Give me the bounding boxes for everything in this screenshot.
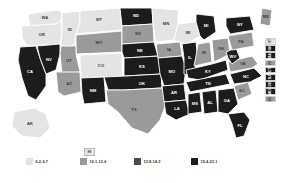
legend-label-1: 6.2-9.7	[36, 159, 48, 164]
state-label-al: AL	[207, 100, 213, 105]
state-label-wi: WI	[185, 30, 190, 35]
state-label-mn: MN	[163, 21, 170, 26]
callout-label-ri: RI	[269, 61, 273, 65]
state-label-or: OR	[39, 32, 45, 37]
state-label-tn: TN	[205, 81, 211, 86]
choropleth-map-figure: WAORCANVIDMTWYUTCOAZNMNDSDNEKSOKTXMNIAMO…	[0, 0, 286, 183]
states-layer	[12, 8, 272, 138]
state-label-pa: PA	[238, 39, 244, 44]
state-label-tx: TX	[131, 107, 137, 112]
legend-swatch-2	[80, 158, 87, 165]
callout-label-md: MD	[269, 89, 273, 94]
state-label-ga: GA	[224, 98, 230, 103]
state-label-ne: NE	[137, 48, 143, 53]
state-label-az: AZ	[66, 81, 72, 86]
state-label-ut: UT	[66, 58, 72, 63]
callout-label-dc: DC	[269, 96, 273, 101]
state-label-me: ME	[263, 14, 270, 19]
legend-item-3: 12.8-14.2	[134, 158, 160, 165]
state-label-nv: NV	[46, 57, 52, 62]
state-label-ks: KS	[139, 64, 145, 69]
state-label-wv: WV	[230, 54, 237, 59]
state-label-la: LA	[174, 106, 180, 111]
state-label-id: ID	[68, 27, 72, 32]
state-label-sc: SC	[239, 88, 245, 93]
legend-swatch-4	[191, 158, 198, 165]
callout-label-ma: MA	[269, 53, 273, 58]
callout-label-nh: NH	[269, 46, 273, 51]
state-label-ia: IA	[167, 47, 171, 52]
callout-nj: NJ	[265, 74, 276, 81]
state-label-ky: KY	[205, 69, 211, 74]
callout-label-nj: NJ	[269, 75, 273, 79]
state-label-mi: MI	[204, 23, 209, 28]
legend-label-4: 15.4-23.1	[201, 159, 218, 164]
state-label-co: CO	[98, 63, 105, 68]
state-label-ms: MS	[192, 101, 199, 106]
legend-swatch-3	[134, 158, 141, 165]
state-label-va: VA	[240, 61, 246, 66]
legend-label-2: 10.1-12.6	[90, 159, 107, 164]
state-label-nm: NM	[90, 88, 97, 93]
state-label-nd: ND	[133, 13, 139, 18]
callout-nh: NH	[265, 45, 276, 52]
state-label-in: IN	[202, 50, 206, 55]
map-legend: 6.2-9.710.1-12.612.8-14.215.4-23.1	[0, 158, 286, 172]
state-label-ny: NY	[237, 22, 243, 27]
callout-de: DE	[265, 81, 276, 88]
us-states-svg: WAORCANVIDMTWYUTCOAZNMNDSDNEKSOKTXMNIAMO…	[0, 0, 286, 152]
callout-ct: CT	[265, 67, 276, 74]
state-label-ak: AK	[27, 121, 33, 126]
callout-label-vt: VT	[269, 39, 273, 43]
state-label-wy: WY	[96, 40, 103, 45]
legend-swatch-1	[26, 158, 33, 165]
state-ok	[104, 74, 162, 90]
legend-item-1: 6.2-9.7	[26, 158, 48, 165]
state-label-ca: CA	[27, 69, 33, 74]
callout-ma: MA	[265, 52, 276, 59]
callout-vt: VT	[265, 38, 276, 45]
callout-label-de: DE	[269, 82, 273, 87]
state-label-mt: MT	[96, 17, 103, 22]
callout-label-ct: CT	[269, 68, 273, 73]
callout-dc: DC	[265, 96, 276, 103]
state-label-wa: WA	[42, 15, 49, 20]
state-label-il: IL	[188, 55, 192, 60]
state-label-ar: AR	[171, 90, 177, 95]
hawaii-label: HI	[88, 150, 92, 154]
small-state-callout-column: VTNHMARICTNJDEMDDC	[265, 38, 276, 102]
hawaii-inset: HI	[84, 148, 95, 156]
state-label-nc: NC	[243, 74, 249, 79]
state-label-sd: SD	[135, 31, 141, 36]
state-label-mo: MO	[169, 69, 177, 74]
callout-md: MD	[265, 88, 276, 95]
state-label-fl: FL	[237, 123, 243, 128]
us-map-canvas: WAORCANVIDMTWYUTCOAZNMNDSDNEKSOKTXMNIAMO…	[0, 0, 286, 152]
callout-ri: RI	[265, 60, 276, 67]
legend-item-4: 15.4-23.1	[191, 158, 217, 165]
state-label-ok: OK	[139, 81, 145, 86]
state-label-oh: OH	[218, 46, 224, 51]
legend-label-3: 12.8-14.2	[144, 159, 161, 164]
legend-item-2: 10.1-12.6	[80, 158, 106, 165]
